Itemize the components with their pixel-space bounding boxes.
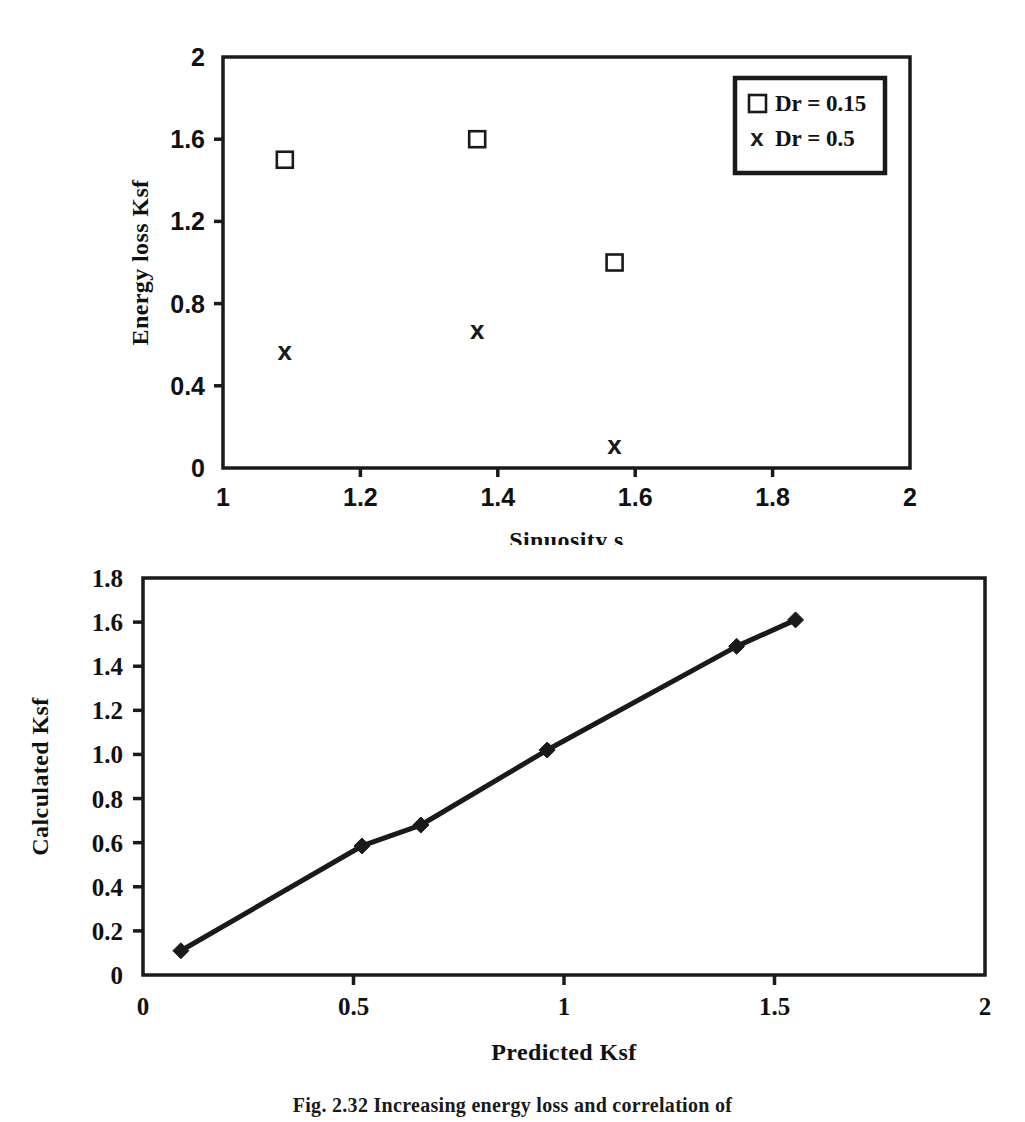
x-tick-label: 1.6 [618, 483, 653, 511]
y-tick-label: 0.8 [170, 290, 205, 318]
top-chart-svg: 00.40.81.21.6211.21.41.61.82Sinuosity sE… [0, 0, 1025, 545]
open-square-marker [607, 255, 623, 271]
y-tick-label: 0 [191, 454, 205, 482]
y-tick-label: 0.4 [92, 874, 124, 901]
x-tick-label: 2 [979, 993, 992, 1020]
x-tick-label: 0 [137, 993, 150, 1020]
legend-x-icon: x [750, 124, 764, 151]
open-square-marker [277, 152, 293, 168]
y-tick-label: 2 [191, 43, 205, 71]
y-tick-label: 1.6 [170, 125, 205, 153]
x-cross-marker: x [607, 430, 622, 460]
y-tick-label: 0.4 [170, 372, 205, 400]
energy-loss-scatter-chart: 00.40.81.21.6211.21.41.61.82Sinuosity sE… [0, 0, 1025, 545]
x-tick-label: 1.8 [755, 483, 790, 511]
x-tick-label: 0.5 [338, 993, 369, 1020]
legend-label-series-0: Dr = 0.15 [775, 91, 866, 116]
y-tick-label: 0 [111, 962, 124, 989]
x-tick-label: 1.5 [759, 993, 790, 1020]
y-tick-label: 1.2 [170, 207, 205, 235]
x-tick-label: 2 [903, 483, 917, 511]
filled-diamond-marker [788, 612, 804, 628]
x-axis-title: Sinuosity s [509, 527, 623, 545]
y-tick-label: 0.6 [92, 830, 123, 857]
x-cross-marker: x [470, 315, 485, 345]
bottom-chart-svg: 00.20.40.60.81.01.21.41.61.800.511.52Pre… [0, 545, 1025, 1070]
x-tick-label: 1.4 [480, 483, 515, 511]
open-square-marker [469, 131, 485, 147]
x-axis-title: Predicted Ksf [491, 1039, 637, 1065]
x-tick-label: 1 [558, 993, 571, 1020]
x-tick-label: 1.2 [343, 483, 378, 511]
y-tick-label: 1.8 [92, 565, 123, 592]
figure-container: 00.40.81.21.6211.21.41.61.82Sinuosity sE… [0, 0, 1025, 1122]
figure-caption: Fig. 2.32 Increasing energy loss and cor… [0, 1094, 1025, 1117]
data-line [181, 620, 796, 951]
x-cross-marker: x [278, 336, 293, 366]
legend-square-icon [749, 95, 766, 112]
x-tick-label: 1 [216, 483, 230, 511]
y-axis-title: Calculated Ksf [27, 697, 53, 856]
y-tick-label: 1.6 [92, 609, 123, 636]
calculated-vs-predicted-line-chart: 00.20.40.60.81.01.21.41.61.800.511.52Pre… [0, 545, 1025, 1070]
y-tick-label: 0.2 [92, 918, 123, 945]
y-tick-label: 1.2 [92, 697, 123, 724]
legend-label-series-1: Dr = 0.5 [775, 126, 855, 151]
y-tick-label: 0.8 [92, 786, 123, 813]
plot-frame [143, 578, 985, 975]
y-tick-label: 1.4 [92, 653, 124, 680]
y-tick-label: 1.0 [92, 741, 123, 768]
y-axis-title: Energy loss Ksf [127, 179, 153, 346]
